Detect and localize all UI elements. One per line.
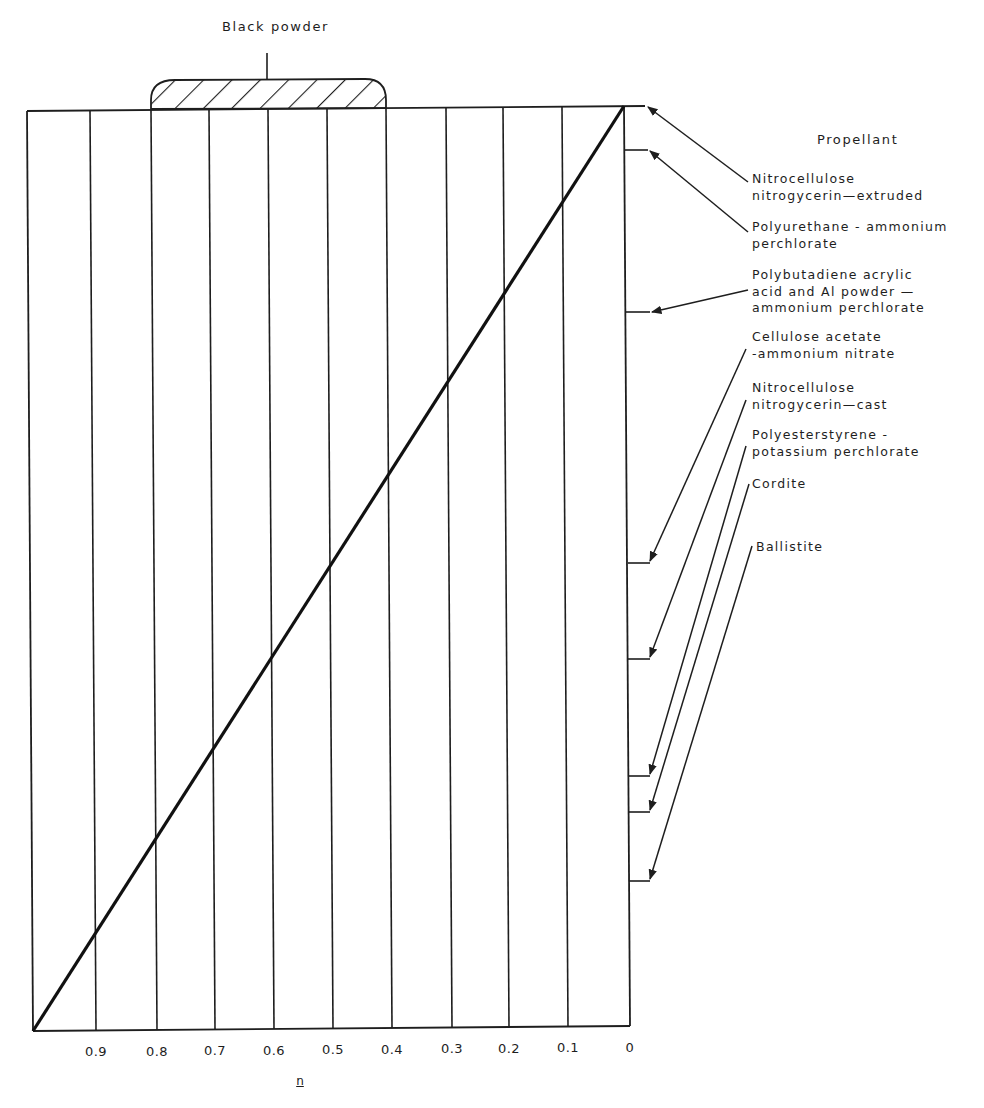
x-tick-label: 0.4	[381, 1042, 403, 1057]
x-tick-label: 0.6	[263, 1043, 285, 1058]
x-tick-label: 0.7	[204, 1043, 226, 1058]
label-polyurethane: Polyurethane - ammonium perchlorate	[752, 219, 948, 252]
plot-frame	[27, 106, 645, 1031]
label-nitrocellulose-cast: Nitrocellulose nitrogycerin—cast	[752, 380, 888, 413]
label-cordite: Cordite	[752, 476, 806, 493]
x-tick-label: 0.1	[557, 1040, 579, 1055]
x-axis-label: n	[296, 1074, 304, 1088]
x-tick-label: 0	[626, 1040, 635, 1055]
x-tick-label: 0.2	[498, 1041, 520, 1056]
label-ballistite: Ballistite	[756, 539, 823, 556]
x-tick-label: 0.3	[441, 1041, 463, 1056]
black-powder-label: Black powder	[222, 19, 329, 36]
x-tick-label: 0.8	[146, 1044, 168, 1059]
x-tick-label: 0.9	[85, 1044, 107, 1059]
black-powder-region	[151, 53, 386, 109]
propellant-diagram	[0, 0, 984, 1108]
leader-arrows	[648, 107, 752, 879]
label-cellulose-acetate: Cellulose acetate -ammonium nitrate	[752, 329, 895, 362]
x-tick-label: 0.5	[322, 1042, 344, 1057]
label-nitrocellulose-extruded: Nitrocellulose nitrogycerin—extruded	[752, 171, 923, 204]
label-polyesterstyrene: Polyesterstyrene - potassium perchlorate	[752, 427, 920, 460]
propellant-header: Propellant	[817, 132, 898, 149]
label-polybutadiene: Polybutadiene acrylic acid and Al powder…	[752, 267, 925, 317]
